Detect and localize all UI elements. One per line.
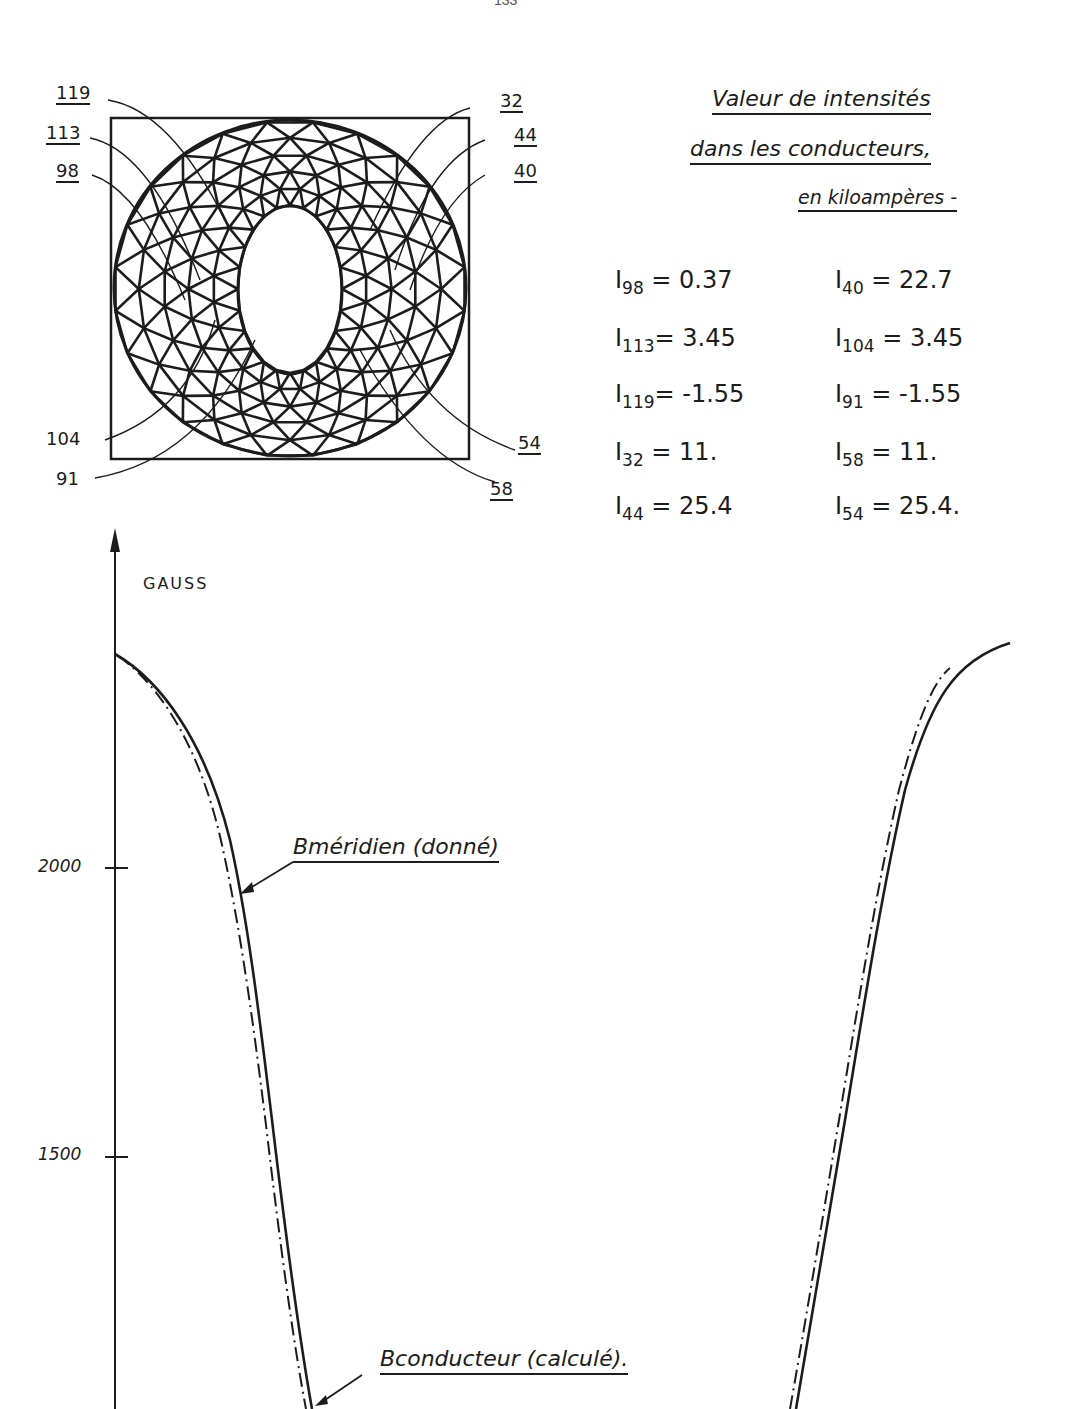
y-tick-1500: 1500 xyxy=(38,1144,81,1164)
annotation-bconducteur: Bconducteur (calculé). xyxy=(380,1346,628,1375)
y-axis-label: GAUSS xyxy=(143,574,208,593)
field-chart xyxy=(0,0,1069,1409)
annotation-bmeridien: Bméridien (donné) xyxy=(293,834,499,863)
y-tick-2000: 2000 xyxy=(38,856,81,876)
